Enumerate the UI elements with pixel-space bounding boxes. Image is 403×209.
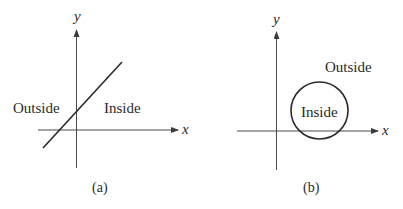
inside-label: Inside — [301, 104, 338, 120]
panel-b: y x Outside Inside (b) — [237, 11, 389, 196]
x-axis-label: x — [381, 122, 389, 138]
caption-a: (a) — [92, 180, 108, 196]
outside-label: Outside — [13, 100, 60, 116]
caption-b: (b) — [303, 180, 320, 196]
x-axis-label: x — [181, 121, 189, 137]
panel-a: y x Outside Inside (a) — [13, 8, 189, 196]
y-axis-label: y — [271, 11, 280, 27]
outside-label: Outside — [325, 59, 372, 75]
y-axis-label: y — [72, 8, 81, 24]
figure-canvas: y x Outside Inside (a) y x Outside Insid… — [0, 0, 403, 209]
inside-label: Inside — [104, 100, 141, 116]
inside-outside-figure: y x Outside Inside (a) y x Outside Insid… — [0, 0, 403, 209]
